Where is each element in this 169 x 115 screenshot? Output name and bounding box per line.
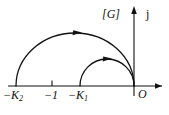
axis-label-k2: −K2 — [3, 89, 23, 103]
axis-label-minus-one: −1 — [44, 89, 58, 101]
axis-label-minus-one-main: −1 — [44, 88, 58, 102]
axis-label-k2-subscript: 2 — [19, 94, 23, 103]
axis-label-k1-subscript: 1 — [84, 94, 88, 103]
nyquist-figure: −K2 −1 −K1 O [G] j — [0, 0, 169, 115]
imaginary-axis-arrowhead-icon — [131, 6, 137, 14]
real-axis-arrowhead-icon — [155, 83, 162, 89]
imaginary-axis-label: j — [146, 8, 149, 20]
axis-label-k2-main: −K — [3, 88, 19, 102]
axis-label-k1: −K1 — [68, 89, 88, 103]
inner-locus-arc — [80, 59, 134, 86]
outer-locus-arc — [16, 33, 134, 86]
origin-label: O — [138, 88, 147, 100]
plane-label: [G] — [102, 8, 120, 20]
outer-locus-arrowhead-icon — [73, 30, 83, 35]
axis-label-k1-main: −K — [68, 88, 84, 102]
